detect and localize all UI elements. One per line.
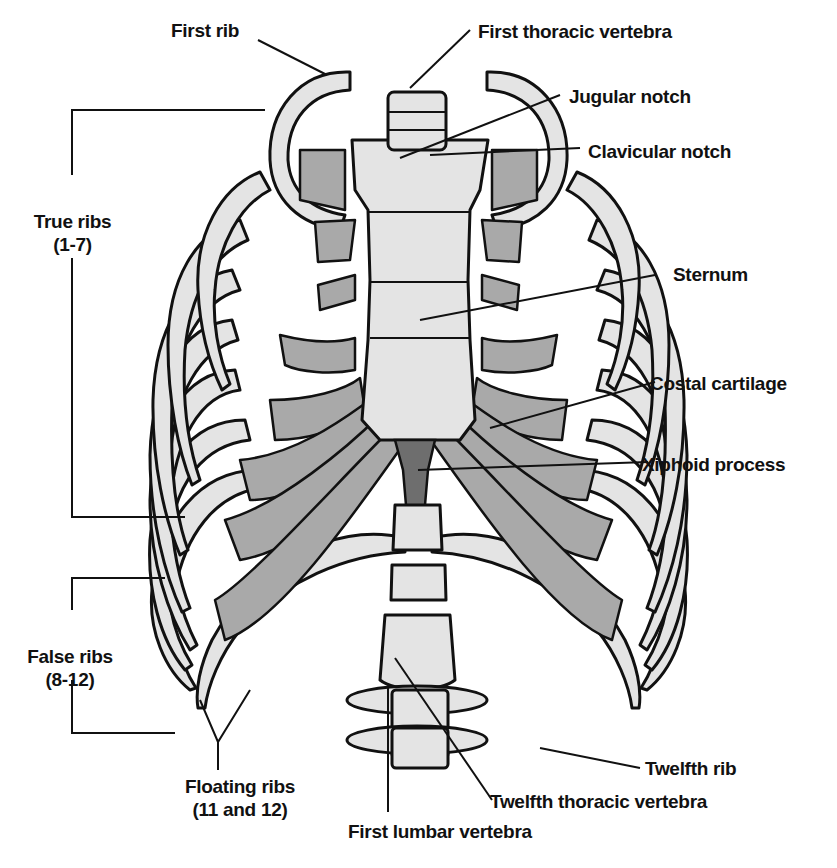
false-ribs-range: (8-12)	[15, 668, 125, 691]
label-floating-ribs: Floating ribs (11 and 12)	[165, 775, 315, 821]
false-ribs-title: False ribs	[15, 645, 125, 668]
label-jugular-notch: Jugular notch	[569, 85, 691, 108]
label-first-thoracic-vertebra: First thoracic vertebra	[478, 20, 672, 43]
rib-cage-illustration: .bone{fill:#e4e4e4;stroke:#111;stroke-wi…	[0, 0, 837, 868]
label-twelfth-thoracic-vertebra: Twelfth thoracic vertebra	[490, 790, 707, 813]
true-ribs-title: True ribs	[20, 210, 125, 233]
label-sternum: Sternum	[673, 263, 748, 286]
label-true-ribs: True ribs (1-7)	[20, 210, 125, 256]
label-twelfth-rib: Twelfth rib	[645, 757, 736, 780]
floating-ribs-range: (11 and 12)	[165, 798, 315, 821]
true-ribs-range: (1-7)	[20, 233, 125, 256]
label-xiphoid-process: Xiphoid process	[642, 453, 785, 476]
label-costal-cartilage: Costal cartilage	[650, 372, 787, 395]
floating-ribs-title: Floating ribs	[165, 775, 315, 798]
label-first-lumbar-vertebra: First lumbar vertebra	[348, 820, 532, 843]
label-false-ribs: False ribs (8-12)	[15, 645, 125, 691]
label-first-rib: First rib	[171, 19, 239, 42]
label-clavicular-notch: Clavicular notch	[588, 140, 731, 163]
